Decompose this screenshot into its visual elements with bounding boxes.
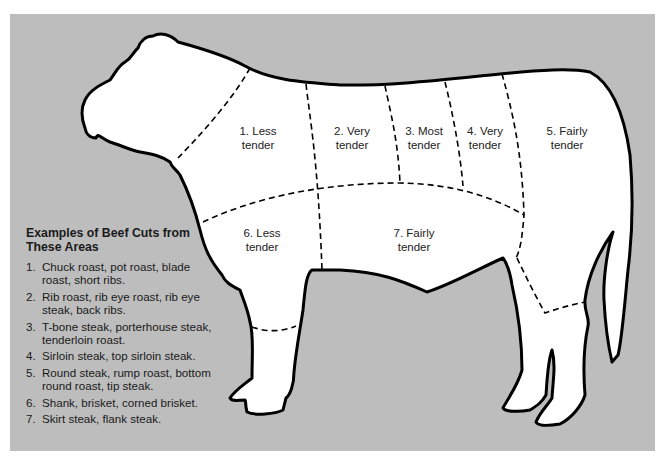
legend-item-text: Rib roast, rib eye roast, rib eye steak,…: [42, 290, 216, 317]
legend-item: 3.T-bone steak, porterhouse steak, tende…: [26, 320, 216, 347]
legend-item-number: 2.: [26, 290, 42, 317]
legend-item-text: Skirt steak, flank steak.: [42, 412, 216, 425]
region-label-4: 4. Very tender: [445, 124, 525, 152]
legend-item: 4.Sirloin steak, top sirloin steak.: [26, 349, 216, 362]
legend-item-number: 7.: [26, 412, 42, 425]
legend-item-text: Round steak, rump roast, bottom round ro…: [42, 366, 216, 393]
region-4-line1: 4. Very: [445, 124, 525, 138]
region-label-1: 1. Less tender: [218, 124, 298, 152]
region-2-line2: tender: [312, 138, 392, 152]
region-6-line2: tender: [222, 240, 302, 254]
legend-item-number: 6.: [26, 396, 42, 409]
region-1-line1: 1. Less: [218, 124, 298, 138]
beef-cuts-legend: Examples of Beef Cuts from These Areas 1…: [26, 226, 216, 428]
legend-list: 1.Chuck roast, pot roast, blade roast, s…: [26, 260, 216, 425]
legend-item-number: 3.: [26, 320, 42, 347]
region-label-5: 5. Fairly tender: [527, 124, 607, 152]
region-label-2: 2. Very tender: [312, 124, 392, 152]
legend-item: 1.Chuck roast, pot roast, blade roast, s…: [26, 260, 216, 287]
region-4-line2: tender: [445, 138, 525, 152]
legend-item-number: 5.: [26, 366, 42, 393]
region-7-line1: 7. Fairly: [374, 226, 454, 240]
legend-item-text: Chuck roast, pot roast, blade roast, sho…: [42, 260, 216, 287]
region-label-7: 7. Fairly tender: [374, 226, 454, 254]
legend-item-text: Shank, brisket, corned brisket.: [42, 396, 216, 409]
region-1-line2: tender: [218, 138, 298, 152]
legend-item-number: 4.: [26, 349, 42, 362]
region-7-line2: tender: [374, 240, 454, 254]
legend-title: Examples of Beef Cuts from These Areas: [26, 226, 216, 254]
legend-item-text: T-bone steak, porterhouse steak, tenderl…: [42, 320, 216, 347]
legend-item: 2.Rib roast, rib eye roast, rib eye stea…: [26, 290, 216, 317]
region-label-6: 6. Less tender: [222, 226, 302, 254]
region-5-line2: tender: [527, 138, 607, 152]
legend-item-number: 1.: [26, 260, 42, 287]
legend-item: 6.Shank, brisket, corned brisket.: [26, 396, 216, 409]
region-5-line1: 5. Fairly: [527, 124, 607, 138]
legend-item-text: Sirloin steak, top sirloin steak.: [42, 349, 216, 362]
region-6-line1: 6. Less: [222, 226, 302, 240]
region-2-line1: 2. Very: [312, 124, 392, 138]
legend-item: 7.Skirt steak, flank steak.: [26, 412, 216, 425]
legend-item: 5.Round steak, rump roast, bottom round …: [26, 366, 216, 393]
